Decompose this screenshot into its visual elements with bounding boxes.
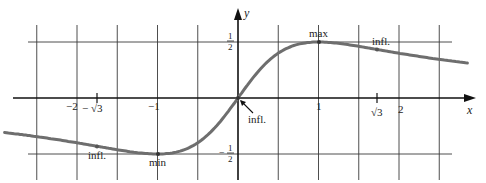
x-axis-label: x: [466, 103, 473, 117]
y-tick-label-half: 1 2: [227, 31, 234, 52]
annotation-infl-right: infl.: [372, 35, 390, 47]
y-axis-arrow-icon: [234, 8, 242, 20]
function-graph: y x −2 − √3 −1 1 √3 2 1 2 − 1 2 max min …: [0, 0, 486, 183]
inflection-point-left: [95, 145, 99, 149]
x-tick-label-neg-sqrt3: √3: [91, 102, 103, 114]
y-tick-label-neg-half: − 1 2: [219, 143, 234, 164]
annotation-infl-origin: infl.: [248, 113, 266, 125]
inflection-point-origin: [236, 96, 240, 100]
x-tick-label-neg1: −1: [148, 100, 160, 112]
max-point: [317, 40, 321, 44]
y-axis-label: y: [243, 6, 250, 20]
x-axis: [13, 94, 476, 102]
x-tick-label-neg2: −2: [66, 100, 78, 112]
annotation-infl-left: infl.: [88, 149, 106, 161]
annotation-max: max: [309, 27, 328, 39]
x-tick-label-1: 1: [316, 100, 322, 112]
x-axis-arrow-icon: [464, 94, 476, 102]
inflection-point-right: [375, 48, 379, 52]
svg-text:1: 1: [228, 143, 233, 153]
svg-text:2: 2: [228, 42, 233, 52]
svg-text:2: 2: [228, 154, 233, 164]
svg-text:−: −: [219, 147, 225, 158]
x-tick-label-2: 2: [398, 103, 404, 115]
x-tick-label-sqrt3: √3: [371, 106, 383, 118]
x-tick-label-neg-sqrt3-sign: −: [82, 102, 88, 114]
svg-text:1: 1: [228, 31, 233, 41]
annotation-min: min: [149, 156, 167, 168]
